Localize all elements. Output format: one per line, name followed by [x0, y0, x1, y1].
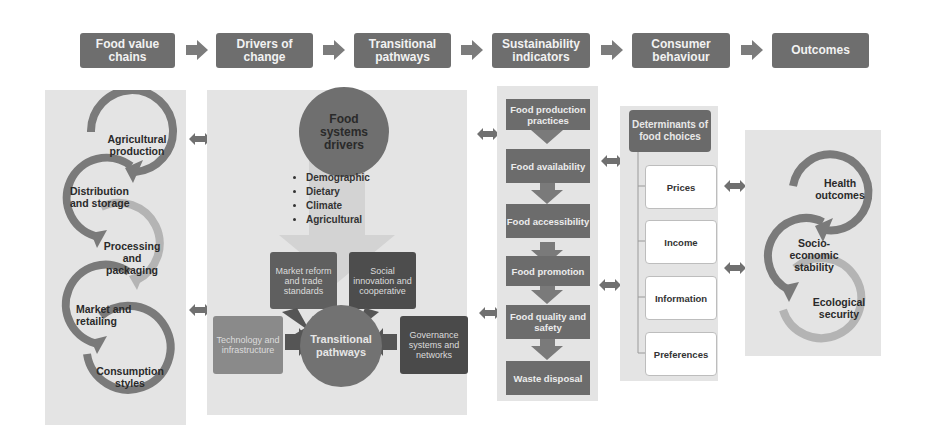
- arrow-right-icon: [323, 40, 345, 60]
- value-chain-step: Processing and packaging: [98, 240, 166, 276]
- value-chain-step: Market and retailing: [76, 303, 134, 327]
- determinant-prices: Prices: [645, 165, 717, 209]
- header-food-value-chains: Food value chains: [80, 33, 175, 68]
- arrow-right-icon: [741, 40, 763, 60]
- arrow-right-icon: [601, 40, 623, 60]
- outcome-item: Socio-economic stability: [782, 237, 846, 273]
- header-transitional-pathways: Transitional pathways: [354, 33, 451, 68]
- indicator-step: Food quality and safety: [506, 305, 590, 339]
- transitional-pathways-circle: Transitional pathways: [300, 305, 382, 387]
- indicator-step: Food accessibility: [506, 204, 590, 238]
- value-chain-step: Consumption styles: [96, 365, 164, 389]
- double-arrow-icon: [599, 279, 621, 291]
- header-outcomes: Outcomes: [772, 33, 869, 68]
- indicator-step: Waste disposal: [506, 361, 590, 395]
- double-arrow-icon: [477, 128, 499, 140]
- determinant-income: Income: [645, 220, 717, 264]
- determinant-information: Information: [645, 276, 717, 320]
- arrow-right-icon: [461, 40, 483, 60]
- value-chain-step: Distribution and storage: [70, 185, 140, 209]
- indicator-step: Food production practices: [506, 99, 590, 130]
- indicator-step: Food availability: [506, 149, 590, 183]
- header-sustainability-indicators: Sustainability indicators: [492, 33, 590, 68]
- arrow-right-icon: [186, 40, 208, 60]
- indicator-flow-arrows: [497, 86, 598, 401]
- header-drivers-of-change: Drivers of change: [216, 33, 313, 68]
- indicator-step: Food promotion: [506, 256, 590, 286]
- double-arrow-icon: [724, 262, 746, 274]
- outcome-item: Ecological security: [806, 296, 872, 320]
- determinant-preferences: Preferences: [645, 332, 717, 376]
- header-consumer-behaviour: Consumer behaviour: [632, 33, 730, 68]
- double-arrow-icon: [724, 180, 746, 192]
- outcome-item: Health outcomes: [810, 177, 870, 201]
- value-chain-step: Agricultural production: [98, 133, 176, 157]
